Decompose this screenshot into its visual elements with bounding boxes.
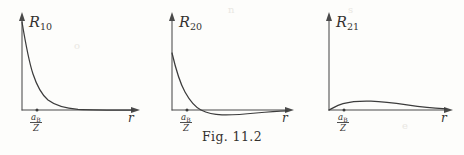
x-axis-label: r	[441, 111, 448, 125]
x-axis-label: r	[282, 111, 289, 125]
svg-text:aB: aB	[338, 112, 348, 123]
curve-R21	[329, 101, 446, 110]
y-axis-arrowhead	[169, 12, 175, 21]
curve-label-R10: R10	[28, 14, 52, 32]
plot-panel-R21: R21 r aB Z	[305, 0, 464, 130]
svg-text:aB: aB	[181, 112, 191, 123]
y-axis-arrowhead	[326, 12, 332, 21]
curve-R20	[172, 53, 287, 115]
curve-label-R20: R20	[178, 14, 202, 32]
plot-panel-R20: R20 r aB Z	[150, 0, 305, 130]
y-axis-arrowhead	[19, 12, 25, 21]
x-axis-label: r	[128, 111, 135, 125]
figure-container: o n s e R10 r aB Z	[0, 0, 464, 155]
plot-panel-R10: R10 r aB Z	[0, 0, 150, 130]
svg-text:aB: aB	[31, 112, 41, 123]
curve-label-R21: R21	[335, 14, 359, 32]
curve-R10	[22, 22, 133, 110]
figure-caption: Fig. 11.2	[0, 129, 464, 144]
